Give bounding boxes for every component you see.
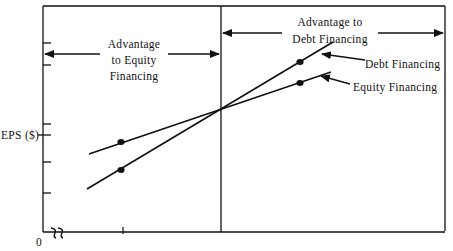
equity-region-label-2: to Equity <box>111 54 156 67</box>
debt-line-label: Debt Financing <box>365 58 440 71</box>
debt-region-label-2: Debt Financing <box>292 33 367 46</box>
eps-ebit-chart: Advantage to Equity Financing Advantage … <box>0 0 453 251</box>
y-axis-ticks <box>38 43 51 193</box>
region-arrows <box>45 33 443 54</box>
axis-break-icon <box>51 228 63 238</box>
annotation-arrows <box>321 54 365 84</box>
equity-financing-line <box>89 72 331 154</box>
equity-annotation-arrow <box>321 76 350 84</box>
equity-region-label-1: Advantage <box>108 38 161 51</box>
debt-annotation-arrow <box>322 54 365 60</box>
plot-frame <box>43 6 445 232</box>
equity-line-label: Equity Financing <box>353 81 437 94</box>
equity-region-label-3: Financing <box>110 70 159 83</box>
y-axis-label: EPS ($) <box>1 129 39 142</box>
origin-label: 0 <box>36 236 42 248</box>
debt-region-label-1: Advantage to <box>297 16 362 29</box>
